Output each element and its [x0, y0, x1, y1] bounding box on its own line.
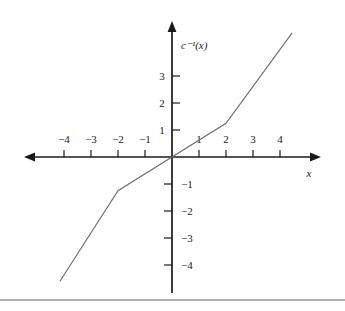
x-tick-label-3: 3: [250, 133, 256, 145]
x-axis-right-arrow-icon: [310, 153, 321, 162]
figure-container: −4 −3 −2 −1 1 2 3 4 x 3 2 1: [0, 0, 345, 311]
y-axis-label: c⁻¹(x): [181, 39, 208, 52]
y-tick-label--1: −1: [181, 178, 193, 190]
x-tick-label-4: 4: [277, 133, 283, 145]
x-axis-label: x: [306, 167, 312, 179]
x-tick-label--4: −4: [58, 133, 70, 145]
y-tick-label-1: 1: [159, 124, 165, 136]
y-tick-label-3: 3: [159, 70, 165, 82]
y-tick-label-2: 2: [159, 97, 165, 109]
x-axis-left-arrow-icon: [24, 153, 35, 162]
y-tick-label--3: −3: [181, 232, 193, 244]
x-tick-label--2: −2: [112, 133, 124, 145]
y-tick-label--4: −4: [181, 259, 193, 271]
y-tick-label--2: −2: [181, 205, 193, 217]
x-tick-label-2: 2: [223, 133, 229, 145]
x-tick-label--1: −1: [139, 133, 151, 145]
x-tick-label--3: −3: [85, 133, 97, 145]
y-axis-up-arrow-icon: [168, 21, 177, 32]
inverse-function-graph: −4 −3 −2 −1 1 2 3 4 x 3 2 1: [0, 0, 345, 311]
